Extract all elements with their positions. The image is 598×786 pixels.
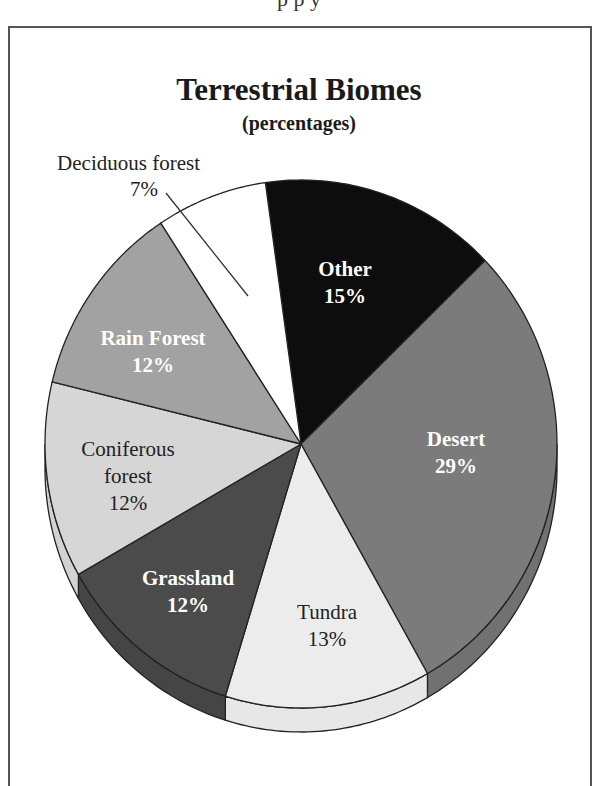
slice-label-desert: Desert29% xyxy=(427,426,485,480)
slice-label-tundra: Tundra13% xyxy=(297,599,357,653)
deciduous-forest-label: Deciduous forest 7% xyxy=(40,150,200,202)
slice-label-line: Other xyxy=(318,256,372,283)
slice-label-line: 29% xyxy=(427,453,485,480)
slice-label-line: forest xyxy=(81,463,174,490)
slice-label-line: Grassland xyxy=(142,565,234,592)
slice-label-line: Tundra xyxy=(297,599,357,626)
slice-label-line: 13% xyxy=(297,626,357,653)
slice-label-line: 12% xyxy=(142,592,234,619)
deciduous-forest-name: Deciduous forest xyxy=(40,150,200,176)
slice-label-line: 15% xyxy=(318,283,372,310)
slice-label-line: 12% xyxy=(81,490,174,517)
deciduous-forest-pct: 7% xyxy=(40,176,200,202)
slice-label-line: 12% xyxy=(100,352,205,379)
slice-label-line: Rain Forest xyxy=(100,325,205,352)
slice-label-grassland: Grassland12% xyxy=(142,565,234,619)
slice-label-line: Coniferous xyxy=(81,436,174,463)
slice-label-line: Desert xyxy=(427,426,485,453)
slice-label-rain-forest: Rain Forest12% xyxy=(100,325,205,379)
slice-label-other: Other15% xyxy=(318,256,372,310)
slice-label-coniferous-forest: Coniferousforest12% xyxy=(81,436,174,517)
